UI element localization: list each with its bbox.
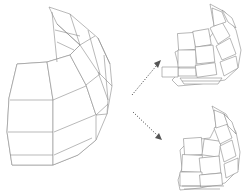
- diagram-canvas: [0, 0, 247, 196]
- arrow-to-bottom-result: [133, 112, 162, 140]
- source-shell: [7, 7, 112, 165]
- result-shell-bottom: [178, 106, 240, 190]
- arrow-to-top-result: [132, 60, 161, 95]
- diagram-svg: [0, 0, 247, 196]
- result-shell-top: [162, 4, 241, 86]
